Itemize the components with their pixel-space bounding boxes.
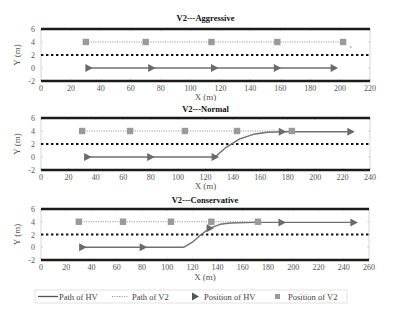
subplot-title: V2---Aggressive bbox=[177, 13, 235, 23]
x-tick-label: 240 bbox=[338, 263, 350, 272]
legend-square-icon bbox=[275, 294, 280, 299]
hv-position-marker bbox=[79, 243, 87, 251]
subplot-v-aggressive: 020406080100120140160180200220-20246*V2-… bbox=[12, 13, 376, 102]
hv-position-marker bbox=[85, 64, 93, 72]
hv-position-marker bbox=[211, 64, 219, 72]
x-tick-label: 100 bbox=[161, 263, 173, 272]
hv-position-marker bbox=[84, 153, 92, 161]
x-tick-label: 180 bbox=[262, 263, 274, 272]
y-axis-label: Y (m) bbox=[12, 44, 22, 65]
x-tick-label: 40 bbox=[92, 173, 100, 182]
y-tick-label: 2 bbox=[31, 231, 35, 240]
x-tick-label: 160 bbox=[237, 263, 249, 272]
v2-position-marker bbox=[340, 39, 346, 45]
v2-position-marker bbox=[127, 128, 133, 134]
x-tick-label: 260 bbox=[363, 263, 375, 272]
x-tick-label: 20 bbox=[67, 84, 75, 93]
x-tick-label: 80 bbox=[157, 84, 165, 93]
x-tick-label: 140 bbox=[244, 84, 256, 93]
x-tick-label: 0 bbox=[39, 84, 43, 93]
hv-position-marker bbox=[350, 218, 358, 226]
x-tick-label: 40 bbox=[87, 263, 95, 272]
legend: Path of HVPath of V2Position of HVPositi… bbox=[35, 290, 347, 303]
y-tick-label: 4 bbox=[31, 38, 35, 47]
hv-position-marker bbox=[347, 128, 355, 136]
y-tick-label: 6 bbox=[31, 205, 35, 214]
x-tick-label: 20 bbox=[64, 173, 72, 182]
subplot-title: V2---Normal bbox=[182, 104, 229, 114]
hv-position-marker bbox=[148, 64, 156, 72]
v2-position-marker bbox=[182, 128, 188, 134]
v2-position-marker bbox=[168, 219, 174, 225]
x-tick-label: 200 bbox=[309, 173, 321, 182]
x-tick-label: 180 bbox=[304, 84, 316, 93]
x-axis-label: X (m) bbox=[195, 92, 217, 102]
v2-position-marker bbox=[208, 39, 214, 45]
hv-position-marker bbox=[147, 153, 155, 161]
x-tick-label: 60 bbox=[127, 84, 135, 93]
y-tick-label: 4 bbox=[31, 127, 35, 136]
legend-item-v2-position: Position of V2 bbox=[288, 292, 337, 302]
x-tick-label: 80 bbox=[138, 263, 146, 272]
x-tick-label: 100 bbox=[172, 173, 184, 182]
y-tick-label: 0 bbox=[31, 153, 35, 162]
y-tick-label: 0 bbox=[31, 243, 35, 252]
axes-frame bbox=[41, 29, 370, 81]
x-tick-label: 160 bbox=[254, 173, 266, 182]
x-tick-label: 140 bbox=[227, 173, 239, 182]
x-tick-label: 0 bbox=[39, 263, 43, 272]
v2-position-marker bbox=[274, 39, 280, 45]
x-tick-label: 80 bbox=[147, 173, 155, 182]
legend-item-hv-position: Position of HV bbox=[204, 292, 256, 302]
hv-position-marker bbox=[331, 64, 339, 72]
x-tick-label: 220 bbox=[313, 263, 325, 272]
x-tick-label: 180 bbox=[282, 173, 294, 182]
v2-position-marker bbox=[76, 219, 82, 225]
x-tick-label: 160 bbox=[274, 84, 286, 93]
hv-position-marker bbox=[274, 64, 282, 72]
x-tick-label: 20 bbox=[62, 263, 70, 272]
x-tick-label: 140 bbox=[212, 263, 224, 272]
subplot-v-conservative: 020406080100120140160180200220240260-202… bbox=[12, 195, 375, 282]
v2-position-marker bbox=[234, 128, 240, 134]
axes-frame bbox=[41, 209, 369, 260]
x-tick-label: 40 bbox=[97, 84, 105, 93]
x-tick-label: 120 bbox=[186, 263, 198, 272]
y-tick-label: 0 bbox=[31, 64, 35, 73]
hv-position-marker bbox=[278, 218, 286, 226]
v2-position-marker bbox=[79, 128, 85, 134]
x-tick-label: 200 bbox=[334, 84, 346, 93]
subplot-v-normal: 020406080100120140160180200220240-20246V… bbox=[12, 104, 376, 191]
y-tick-label: -2 bbox=[28, 77, 35, 86]
hv-position-marker bbox=[140, 243, 148, 251]
x-tick-label: 220 bbox=[364, 84, 376, 93]
v2-position-marker bbox=[255, 219, 261, 225]
x-axis-label: X (m) bbox=[194, 272, 216, 282]
y-tick-label: 2 bbox=[31, 51, 35, 60]
x-tick-label: 60 bbox=[119, 173, 127, 182]
x-tick-label: 200 bbox=[287, 263, 299, 272]
annotation-mark: * bbox=[349, 45, 352, 51]
y-axis-label: Y (m) bbox=[12, 224, 22, 245]
y-tick-label: 6 bbox=[31, 114, 35, 123]
legend-item-v2-path: Path of V2 bbox=[132, 292, 169, 302]
axes-frame bbox=[41, 118, 370, 170]
v2-position-marker bbox=[208, 219, 214, 225]
v2-position-marker bbox=[142, 39, 148, 45]
legend-item-hv-path: Path of HV bbox=[59, 292, 99, 302]
y-tick-label: 6 bbox=[31, 25, 35, 34]
v2-position-marker bbox=[120, 219, 126, 225]
x-tick-label: 240 bbox=[364, 173, 376, 182]
trajectory-charts: 020406080100120140160180200220-20246*V2-… bbox=[0, 0, 394, 319]
x-axis-label: X (m) bbox=[195, 181, 217, 191]
x-tick-label: 60 bbox=[113, 263, 121, 272]
y-axis-label: Y (m) bbox=[12, 133, 22, 154]
subplot-title: V2---Conservative bbox=[172, 195, 239, 205]
hv-position-marker bbox=[279, 128, 287, 136]
x-tick-label: 0 bbox=[39, 173, 43, 182]
v2-position-marker bbox=[289, 128, 295, 134]
hv-position-marker bbox=[207, 224, 215, 232]
y-tick-label: 4 bbox=[31, 218, 35, 227]
y-tick-label: -2 bbox=[28, 166, 35, 175]
y-tick-label: 2 bbox=[31, 140, 35, 149]
